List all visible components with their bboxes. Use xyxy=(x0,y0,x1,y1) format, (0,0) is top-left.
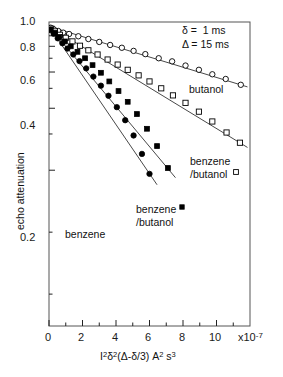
plot-canvas xyxy=(0,0,283,377)
data-point xyxy=(77,58,82,63)
data-point xyxy=(123,117,128,122)
data-point xyxy=(237,140,242,145)
data-point xyxy=(166,166,171,171)
data-point xyxy=(170,93,175,98)
data-point xyxy=(196,109,201,114)
data-point xyxy=(86,48,91,53)
data-point xyxy=(99,70,104,75)
delta-small-symbol: δ xyxy=(182,24,188,36)
xlabel-a-exp: 2 xyxy=(159,350,163,359)
y-tick-label-3: 0.6 xyxy=(20,74,35,86)
y-tick-label-5: 0.2 xyxy=(20,231,35,243)
data-point xyxy=(107,79,112,84)
x-multiplier-exponent: -7 xyxy=(256,331,263,340)
data-point xyxy=(65,46,70,51)
data-point xyxy=(210,119,215,124)
data-point xyxy=(125,99,130,104)
data-point xyxy=(183,63,188,68)
annotation-delta-large: Δ = 15 ms xyxy=(182,38,229,50)
series-label-butanol: butanol xyxy=(189,83,223,95)
data-point xyxy=(155,144,160,149)
data-point xyxy=(196,67,201,72)
x-multiplier-base: x10 xyxy=(238,331,256,343)
data-point xyxy=(238,82,243,87)
data-point xyxy=(70,39,75,44)
delta-large-value: 15 ms xyxy=(200,38,229,50)
series-label-benzene: benzene xyxy=(65,228,105,240)
data-point xyxy=(147,79,152,84)
series-label-benzene-butanol-filled-1: benzene xyxy=(136,203,176,215)
data-point xyxy=(159,86,164,91)
x-tick-label-6: 6 xyxy=(145,331,151,343)
data-point xyxy=(114,104,119,109)
data-point xyxy=(83,56,88,61)
series-label-benzene-butanol-filled-2: /butanol xyxy=(136,216,173,228)
x-axis-multiplier: x10-7 xyxy=(238,331,263,343)
delta-small-eq: = xyxy=(191,24,197,36)
data-point xyxy=(105,57,110,62)
xlabel-paren: (Δ-δ/3) xyxy=(117,350,149,362)
y-axis-title: echo attenuation xyxy=(14,152,26,230)
delta-large-eq: = xyxy=(191,38,197,50)
data-point xyxy=(139,151,144,156)
data-point xyxy=(143,51,148,56)
data-point xyxy=(71,52,76,57)
series-label-benzene-butanol-open-1: benzene xyxy=(190,155,230,167)
data-point xyxy=(106,93,111,98)
data-point xyxy=(95,52,100,57)
data-point xyxy=(60,41,65,46)
data-point xyxy=(131,133,136,138)
data-point xyxy=(183,100,188,105)
data-point xyxy=(223,76,228,81)
x-tick-label-8: 8 xyxy=(179,331,185,343)
data-point xyxy=(131,48,136,53)
x-axis-title: I2δ2(Δ-δ/3) A2 s3 xyxy=(100,350,176,362)
data-point xyxy=(224,130,229,135)
data-point xyxy=(77,43,82,48)
data-point xyxy=(86,36,91,41)
data-point xyxy=(115,62,120,67)
data-point xyxy=(55,36,60,41)
data-point xyxy=(125,67,130,72)
data-point xyxy=(116,89,121,94)
series-label-benzene-butanol-open-2: /butanol xyxy=(190,168,227,180)
data-point xyxy=(107,42,112,47)
data-point xyxy=(136,73,141,78)
data-point xyxy=(83,66,88,71)
annotation-delta-small: δ = 1 ms xyxy=(182,24,226,36)
y-tick-label-2: 0.8 xyxy=(20,41,35,53)
data-point xyxy=(210,72,215,77)
data-point xyxy=(51,31,56,36)
x-tick-label-0: 0 xyxy=(45,331,51,343)
y-tick-label-4: 0.4 xyxy=(20,119,35,131)
data-point xyxy=(91,74,96,79)
figure-container: 1.0 0.8 0.6 0.4 0.2 0 2 4 6 8 10 x10-7 e… xyxy=(0,0,283,377)
data-point xyxy=(76,34,81,39)
data-point xyxy=(98,83,103,88)
legend-key-benzene-butanol-open xyxy=(234,170,239,175)
data-point xyxy=(90,63,95,68)
data-point xyxy=(119,45,124,50)
data-point xyxy=(156,56,161,61)
x-tick-label-2: 2 xyxy=(78,331,84,343)
data-point xyxy=(97,39,102,44)
legend-key-benzene-butanol-filled xyxy=(180,205,184,209)
xlabel-s-exp: 3 xyxy=(172,350,176,359)
data-point xyxy=(169,59,174,64)
data-point xyxy=(135,112,140,117)
x-tick-label-4: 4 xyxy=(112,331,118,343)
delta-small-value: 1 ms xyxy=(203,24,226,36)
delta-large-symbol: Δ xyxy=(182,38,188,50)
x-tick-label-10: 10 xyxy=(209,331,221,343)
data-point xyxy=(147,171,152,176)
data-point xyxy=(145,126,150,131)
y-tick-label-1: 1.0 xyxy=(20,15,35,27)
